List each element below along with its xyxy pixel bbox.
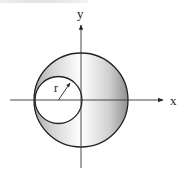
y-axis-label: y — [77, 6, 84, 21]
radius-label: r — [54, 81, 58, 95]
circle-with-cavity-diagram: x y r — [0, 0, 184, 173]
x-axis-label: x — [170, 93, 177, 108]
